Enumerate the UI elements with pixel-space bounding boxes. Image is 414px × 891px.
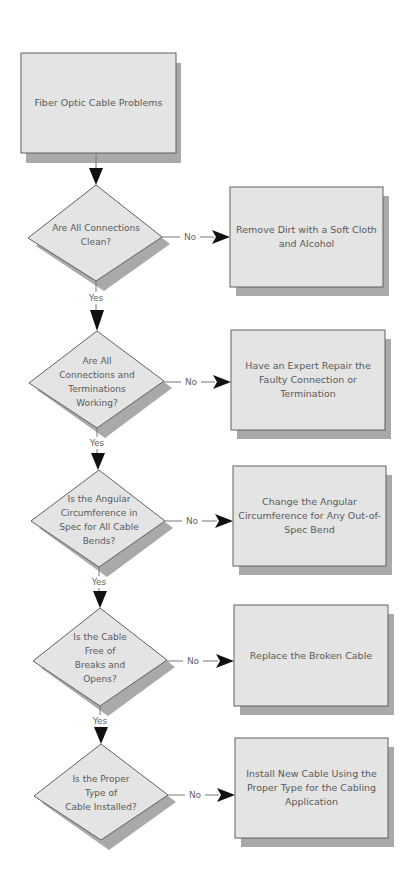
decision-4-diamond [33,608,175,716]
decision-2-no-label: No [183,377,199,387]
decision-2-diamond [29,331,172,438]
action-2-box [231,330,391,439]
decision-5-diamond [34,744,176,850]
decision-5-no-label: No [187,790,203,800]
action-5-box [235,738,394,847]
action-4-box [234,605,394,715]
flowchart-canvas [0,0,414,891]
decision-4-no-label: No [185,656,201,666]
decision-3-diamond [31,470,173,577]
decision-1-no-label: No [182,232,198,242]
action-3-box [233,466,392,575]
decision-4-yes-label: Yes [91,716,110,726]
action-1-box [230,187,389,296]
decision-3-no-label: No [184,516,200,526]
decision-1-yes-label: Yes [87,293,106,303]
start-box [21,53,181,163]
decision-3-yes-label: Yes [90,577,109,587]
decision-1-diamond [28,185,170,291]
decision-2-yes-label: Yes [88,438,107,448]
